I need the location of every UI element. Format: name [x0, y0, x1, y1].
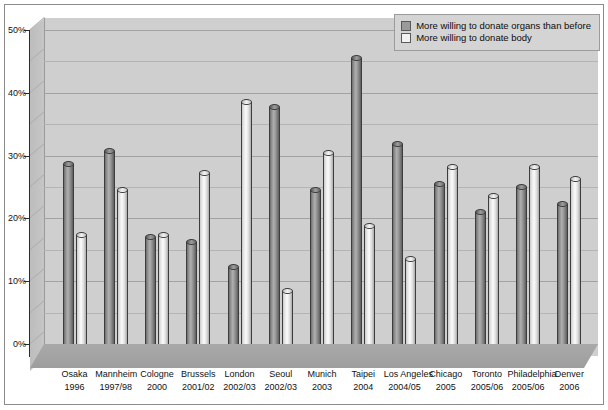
chart-legend: More willing to donate organs than befor…: [394, 14, 600, 51]
bar-cylinder-body: [434, 184, 445, 344]
bar-cylinder-cap: [392, 141, 403, 147]
x-axis-tick-labels: Osaka1996Mannheim1997/98Cologne2000Bruss…: [30, 368, 598, 406]
bar-cylinder-cap: [529, 164, 540, 170]
bar-group-brussels: [186, 18, 210, 356]
bar-taipei-organs: [351, 55, 362, 344]
bar-munich-organs: [310, 187, 321, 344]
bar-taipei-body: [364, 223, 375, 344]
bar-mannheim-body: [117, 187, 128, 344]
bar-london-organs: [228, 264, 239, 344]
x-label-city: Los Angeles: [384, 368, 425, 380]
bar-osaka-organs: [63, 161, 74, 344]
x-label-group-munich: Munich2003: [301, 368, 342, 394]
gridline-depth-45: [29, 61, 44, 74]
x-label-city: Munich: [301, 368, 342, 380]
x-label-year: 2000: [136, 380, 177, 394]
x-label-year: 2005/06: [508, 380, 549, 394]
x-label-year: 2006: [549, 380, 590, 394]
x-label-group-brussels: Brussels2001/02: [178, 368, 219, 394]
bar-cylinder-body: [241, 102, 252, 344]
gridline-depth-15: [29, 250, 44, 263]
bar-cylinder-body: [557, 204, 568, 344]
bar-cologne-organs: [145, 234, 156, 344]
x-label-group-cologne: Cologne2000: [136, 368, 177, 394]
x-label-group-philadelphia: Philadelphia2005/06: [508, 368, 549, 394]
bar-cylinder-body: [186, 242, 197, 344]
bar-cylinder-cap: [434, 181, 445, 187]
bar-cylinder-body: [282, 291, 293, 344]
y-tick-mark-10: [24, 281, 29, 282]
bar-group-chicago: [434, 18, 458, 356]
bar-group-toronto: [475, 18, 499, 356]
x-label-group-denver: Denver2006: [549, 368, 590, 394]
bar-group-seoul: [269, 18, 293, 356]
bar-seoul-body: [282, 288, 293, 344]
x-label-city: Seoul: [260, 368, 301, 380]
gridline-depth-10: [29, 281, 44, 294]
bar-cylinder-cap: [241, 99, 252, 105]
bar-london-body: [241, 99, 252, 344]
bar-cylinder-body: [364, 226, 375, 344]
x-label-group-toronto: Toronto2005/06: [466, 368, 507, 394]
gridline-depth-20: [29, 218, 44, 231]
plot-area: 0%10%20%30%40%50%: [30, 18, 598, 368]
x-label-city: Cologne: [136, 368, 177, 380]
bar-philadelphia-body: [529, 164, 540, 344]
gridline-depth-5: [29, 313, 44, 326]
bar-los-angeles-organs: [392, 141, 403, 344]
y-tick-mark-20: [24, 218, 29, 219]
bar-cylinder-body: [570, 179, 581, 344]
bar-cylinder-body: [117, 190, 128, 344]
bar-cylinder-body: [310, 190, 321, 344]
x-label-city: Philadelphia: [508, 368, 549, 380]
bar-cylinder-body: [488, 196, 499, 344]
bar-cylinder-body: [228, 267, 239, 344]
x-label-city: Taipei: [343, 368, 384, 380]
bar-cylinder-body: [323, 153, 334, 344]
bar-group-los-angeles: [392, 18, 416, 356]
bar-cylinder-body: [104, 151, 115, 344]
x-label-city: Denver: [549, 368, 590, 380]
x-label-year: 2001/02: [178, 380, 219, 394]
x-label-group-london: London2002/03: [219, 368, 260, 394]
bar-osaka-body: [76, 232, 87, 344]
y-tick-mark-50: [24, 30, 29, 31]
y-tick-mark-30: [24, 156, 29, 157]
bar-cylinder-body: [158, 235, 169, 344]
bar-cylinder-cap: [269, 104, 280, 110]
bar-cylinder-body: [447, 167, 458, 344]
x-label-year: 2004: [343, 380, 384, 394]
bar-series-container: [44, 18, 598, 356]
bar-denver-body: [570, 176, 581, 344]
chart-screenshot: 0%10%20%30%40%50% More willing to donate…: [0, 0, 608, 410]
bar-cologne-body: [158, 232, 169, 344]
bar-group-taipei: [351, 18, 375, 356]
x-label-year: 2004/05: [384, 380, 425, 394]
bar-cylinder-body: [76, 235, 87, 344]
bar-philadelphia-organs: [516, 184, 527, 344]
bar-chicago-body: [447, 164, 458, 344]
bar-cylinder-cap: [447, 164, 458, 170]
bar-toronto-body: [488, 193, 499, 344]
gridline-depth-30: [29, 156, 44, 169]
x-label-city: London: [219, 368, 260, 380]
x-label-year: 2002/03: [219, 380, 260, 394]
bar-cylinder-cap: [488, 193, 499, 199]
bar-denver-organs: [557, 201, 568, 344]
y-tick-mark-40: [24, 93, 29, 94]
x-label-group-taipei: Taipei2004: [343, 368, 384, 394]
x-label-city: Brussels: [178, 368, 219, 380]
bar-cylinder-body: [145, 237, 156, 344]
y-axis-tick-labels: 0%10%20%30%40%50%: [0, 18, 28, 368]
bar-cylinder-cap: [475, 209, 486, 215]
bar-cylinder-body: [405, 259, 416, 344]
x-label-group-chicago: Chicago2005: [425, 368, 466, 394]
x-label-city: Osaka: [54, 368, 95, 380]
bar-cylinder-body: [392, 144, 403, 344]
gridline-depth-25: [29, 187, 44, 200]
bar-cylinder-body: [63, 164, 74, 344]
x-label-city: Mannheim: [95, 368, 136, 380]
gridline-depth-50: [29, 30, 44, 43]
gridline-depth-40: [29, 93, 44, 106]
bar-group-munich: [310, 18, 334, 356]
